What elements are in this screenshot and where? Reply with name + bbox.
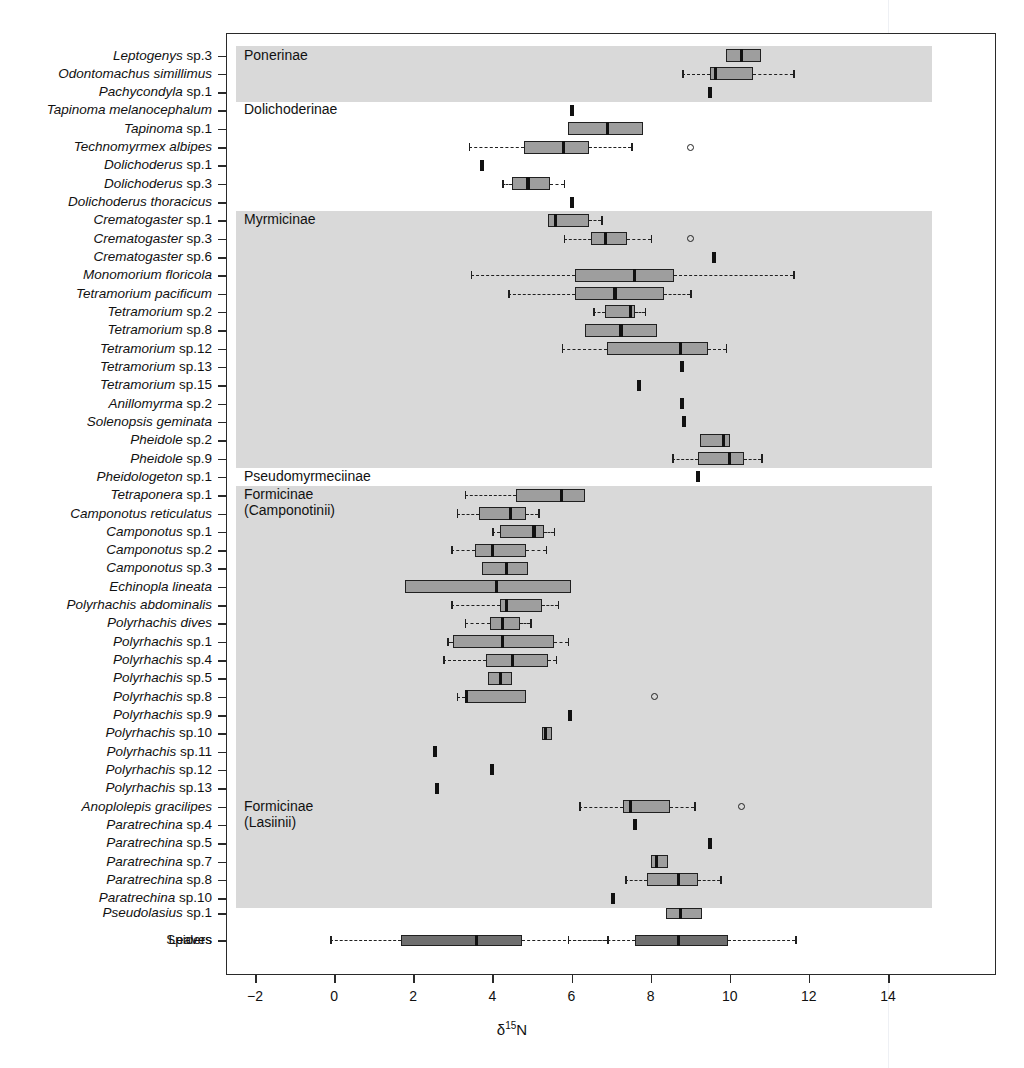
median-line xyxy=(604,232,607,245)
lower-whisker-cap xyxy=(451,546,453,554)
y-axis-tick xyxy=(218,825,226,827)
y-axis-tick xyxy=(218,385,226,387)
y-axis-tick xyxy=(218,532,226,534)
box-iqr xyxy=(490,617,520,630)
box-iqr xyxy=(575,269,674,282)
y-axis-tick-label: Polyrhachis abdominalis xyxy=(7,598,212,612)
y-axis-tick xyxy=(218,165,226,167)
upper-whisker-cap xyxy=(651,235,653,243)
upper-whisker xyxy=(522,940,607,941)
single-observation-mark xyxy=(696,471,700,482)
lower-whisker-cap xyxy=(579,802,581,810)
isotope-mass-number: 15 xyxy=(505,1020,516,1031)
x-axis-tick-label: 12 xyxy=(789,988,829,1004)
y-axis-tick xyxy=(218,587,226,589)
x-axis-tick-label: 14 xyxy=(868,988,908,1004)
y-axis-tick-label: Dolichoderus sp.3 xyxy=(7,177,212,191)
box-iqr xyxy=(475,544,526,557)
outlier-point xyxy=(687,144,694,151)
lower-whisker xyxy=(508,294,575,295)
upper-whisker xyxy=(728,940,795,941)
upper-whisker xyxy=(708,349,726,350)
y-axis-tick xyxy=(218,605,226,607)
y-axis-tick-label: Tetramorium sp.13 xyxy=(7,360,212,374)
y-axis-tick-label: Camponotus sp.2 xyxy=(7,543,212,557)
y-axis-tick xyxy=(218,862,226,864)
y-axis-tick-label: Leaves xyxy=(7,933,212,947)
box-iqr xyxy=(401,935,522,946)
group-band-formicinae xyxy=(236,486,932,798)
median-line xyxy=(606,122,609,135)
y-axis-tick-label: Camponotus sp.3 xyxy=(7,561,212,575)
single-observation-mark xyxy=(570,105,574,116)
median-line xyxy=(495,580,498,593)
y-axis-tick-label: Camponotus sp.1 xyxy=(7,525,212,539)
box-iqr xyxy=(726,49,762,62)
median-line xyxy=(511,654,514,667)
single-observation-mark xyxy=(680,398,684,409)
upper-whisker-cap xyxy=(568,638,570,646)
y-axis-tick xyxy=(218,843,226,845)
lower-whisker xyxy=(562,349,607,350)
box-iqr xyxy=(512,177,550,190)
lower-whisker xyxy=(471,275,576,276)
group-label: Ponerinae xyxy=(244,47,308,63)
single-observation-mark xyxy=(682,416,686,427)
box-iqr xyxy=(405,580,571,593)
y-axis-tick-label: Polyrhachis sp.4 xyxy=(7,653,212,667)
y-axis-tick xyxy=(218,367,226,369)
lower-whisker-cap xyxy=(562,344,564,352)
upper-whisker xyxy=(744,459,762,460)
x-axis-tick xyxy=(492,975,494,983)
y-axis-tick xyxy=(218,147,226,149)
x-axis-tick-label: 2 xyxy=(393,988,433,1004)
y-axis-tick xyxy=(218,495,226,497)
lower-whisker-cap xyxy=(457,693,459,701)
y-axis-tick-label: Tetramorium pacificum xyxy=(7,287,212,301)
upper-whisker-cap xyxy=(554,528,556,536)
upper-whisker xyxy=(589,147,631,148)
y-axis-tick-label: Crematogaster sp.3 xyxy=(7,232,212,246)
upper-whisker-cap xyxy=(538,509,540,517)
x-axis-tick-label: 4 xyxy=(472,988,512,1004)
y-axis-tick-label: Monomorium floricola xyxy=(7,268,212,282)
y-axis-tick-label: Tapinoma melanocephalum xyxy=(7,103,212,117)
y-axis-tick-label: Tetramorium sp.8 xyxy=(7,323,212,337)
median-line xyxy=(505,599,508,612)
median-line xyxy=(728,452,731,465)
y-axis-tick-label: Paratrechina sp.4 xyxy=(7,818,212,832)
lower-whisker xyxy=(564,239,592,240)
upper-whisker-cap xyxy=(530,619,532,627)
upper-whisker-cap xyxy=(564,180,566,188)
lower-whisker-cap xyxy=(451,601,453,609)
median-line xyxy=(629,800,632,813)
y-axis-tick-label: Tetraponera sp.1 xyxy=(7,488,212,502)
box-iqr xyxy=(524,141,589,154)
median-line xyxy=(560,489,563,502)
y-axis-tick xyxy=(218,202,226,204)
median-line xyxy=(499,672,502,685)
upper-whisker-cap xyxy=(690,290,692,298)
median-line xyxy=(562,141,565,154)
y-axis-tick xyxy=(218,550,226,552)
y-axis-tick xyxy=(218,184,226,186)
y-axis-tick xyxy=(218,940,226,942)
y-axis-tick xyxy=(218,56,226,58)
x-axis-tick xyxy=(572,975,574,983)
x-axis-tick-label: 8 xyxy=(631,988,671,1004)
y-axis-tick xyxy=(218,275,226,277)
y-axis-tick-label: Pachycondyla sp.1 xyxy=(7,85,212,99)
single-observation-mark xyxy=(708,838,712,849)
upper-whisker-cap xyxy=(795,936,797,943)
y-axis-tick xyxy=(218,660,226,662)
median-line xyxy=(655,855,658,868)
lower-whisker xyxy=(672,459,698,460)
upper-whisker-cap xyxy=(601,216,603,224)
y-axis-tick-label: Polyrhachis sp.11 xyxy=(7,745,212,759)
y-axis-tick-label: Polyrhachis sp.5 xyxy=(7,671,212,685)
y-axis-tick xyxy=(218,880,226,882)
delta-symbol: δ xyxy=(497,1021,505,1038)
y-axis-tick xyxy=(218,733,226,735)
box-iqr xyxy=(575,287,664,300)
y-axis-tick-label: Tetramorium sp.2 xyxy=(7,305,212,319)
